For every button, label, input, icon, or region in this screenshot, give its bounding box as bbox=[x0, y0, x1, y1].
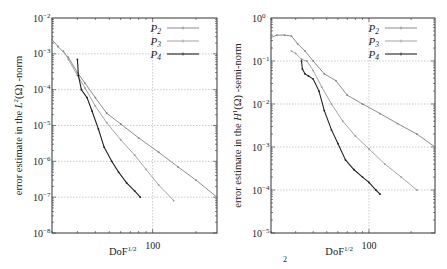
data-point bbox=[94, 105, 96, 107]
data-point bbox=[158, 151, 160, 153]
data-point bbox=[297, 43, 299, 45]
series-line-p2 bbox=[52, 40, 217, 198]
data-point bbox=[270, 37, 272, 39]
legend-label-p4: P4 bbox=[150, 48, 162, 62]
data-point bbox=[368, 182, 370, 184]
series-line-p4 bbox=[302, 61, 381, 194]
data-point bbox=[68, 58, 70, 60]
data-point bbox=[368, 148, 370, 150]
x-tick-label: 100 bbox=[145, 240, 160, 251]
y-tick-label: 10−2 bbox=[252, 98, 270, 110]
series-line-p4 bbox=[77, 59, 140, 197]
series-line-p3 bbox=[63, 51, 173, 201]
data-point bbox=[120, 123, 122, 125]
data-point bbox=[362, 103, 364, 105]
series-line-p2 bbox=[271, 35, 435, 147]
data-point bbox=[342, 120, 344, 122]
data-point bbox=[91, 110, 93, 112]
data-point bbox=[103, 146, 105, 148]
data-point bbox=[76, 58, 78, 60]
data-point bbox=[384, 163, 386, 165]
data-point bbox=[308, 75, 310, 77]
x-tick-label: 100 bbox=[361, 240, 376, 251]
data-point bbox=[362, 176, 364, 178]
data-point bbox=[106, 112, 108, 114]
data-point bbox=[173, 200, 175, 202]
data-point bbox=[301, 68, 303, 70]
data-point bbox=[306, 60, 308, 62]
data-point bbox=[335, 80, 337, 82]
data-point bbox=[379, 113, 381, 115]
data-point bbox=[416, 189, 418, 191]
data-point bbox=[323, 110, 325, 112]
y-tick-label: 10−3 bbox=[33, 47, 51, 59]
y-tick-label: 10−2 bbox=[33, 12, 51, 24]
data-point bbox=[354, 135, 356, 137]
x-axis-label: DoF1/2 bbox=[109, 245, 137, 257]
data-point bbox=[84, 82, 86, 84]
data-point bbox=[177, 166, 179, 168]
data-point bbox=[400, 176, 402, 178]
data-point bbox=[57, 46, 59, 48]
data-point bbox=[434, 146, 436, 148]
data-point bbox=[323, 73, 325, 75]
data-point bbox=[145, 168, 147, 170]
data-point bbox=[139, 196, 141, 198]
data-point bbox=[195, 179, 197, 181]
data-point bbox=[94, 97, 96, 99]
data-point bbox=[301, 60, 303, 62]
data-point bbox=[379, 193, 381, 195]
data-point bbox=[375, 189, 377, 191]
y-tick-label: 10−4 bbox=[33, 83, 51, 95]
y-tick-label: 100 bbox=[252, 12, 266, 24]
data-point bbox=[291, 35, 293, 37]
data-point bbox=[353, 169, 355, 171]
data-point bbox=[416, 133, 418, 135]
y-tick-label: 10−7 bbox=[33, 191, 51, 203]
data-point bbox=[331, 129, 333, 131]
data-point bbox=[345, 159, 347, 161]
y-axis-label: error estimate in the H1(Ω) -semi-norm bbox=[231, 43, 244, 207]
data-point bbox=[312, 78, 314, 80]
y-tick-label: 10−6 bbox=[33, 155, 51, 167]
data-point bbox=[111, 160, 113, 162]
caption-fragment: 2 bbox=[283, 255, 287, 264]
y-tick-label: 10−3 bbox=[252, 141, 270, 153]
data-point bbox=[62, 50, 64, 52]
y-tick-label: 10−4 bbox=[252, 184, 270, 196]
data-point bbox=[120, 139, 122, 141]
x-axis-label: DoF1/2 bbox=[325, 245, 353, 257]
data-point bbox=[318, 90, 320, 92]
y-tick-label: 10−5 bbox=[252, 227, 270, 239]
y-tick-label: 10−1 bbox=[252, 55, 270, 67]
legend-label-p3: P3 bbox=[368, 35, 380, 49]
data-point bbox=[86, 97, 88, 99]
data-point bbox=[97, 128, 99, 130]
data-point bbox=[304, 50, 306, 52]
data-point bbox=[321, 86, 323, 88]
legend-label-p2: P2 bbox=[150, 22, 162, 36]
data-point bbox=[84, 87, 86, 89]
data-point bbox=[138, 137, 140, 139]
data-point bbox=[337, 143, 339, 145]
legend-label-p3: P3 bbox=[150, 35, 162, 49]
data-point bbox=[295, 53, 297, 55]
data-point bbox=[126, 182, 128, 184]
y-axis-label: error estimate in the L2(Ω) -norm bbox=[12, 56, 25, 195]
data-point bbox=[291, 50, 293, 52]
left-chart-panel: 10−210−310−410−510−610−710−8100DoF1/2err… bbox=[12, 12, 218, 258]
data-point bbox=[134, 154, 136, 156]
data-point bbox=[304, 73, 306, 75]
data-point bbox=[106, 122, 108, 124]
y-tick-label: 10−5 bbox=[33, 119, 51, 131]
data-point bbox=[284, 34, 286, 36]
data-point bbox=[397, 123, 399, 125]
chart-figure: 10−210−310−410−510−610−710−8100DoF1/2err… bbox=[0, 0, 447, 269]
data-point bbox=[80, 89, 82, 91]
data-point bbox=[346, 94, 348, 96]
data-point bbox=[51, 39, 53, 41]
data-point bbox=[276, 34, 278, 36]
y-tick-label: 10−8 bbox=[33, 227, 51, 239]
legend-label-p4: P4 bbox=[368, 48, 380, 62]
data-point bbox=[312, 70, 314, 72]
